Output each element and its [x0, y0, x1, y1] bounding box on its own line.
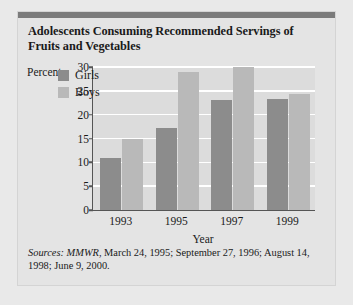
legend-swatch-icon-girls: [58, 70, 69, 81]
y-tick-label: 15: [78, 133, 90, 145]
sources-publication: MMWR: [67, 247, 99, 258]
legend-item-girls: Girls: [58, 67, 100, 83]
bar-boys-1997: [233, 67, 254, 210]
x-tick-label: 1993: [93, 215, 149, 227]
bar-boys-1999: [289, 94, 310, 210]
x-tick-label: 1997: [204, 215, 260, 227]
bar-group: 1997: [204, 67, 260, 210]
bar-girls-1993: [100, 158, 121, 210]
bar-girls-1997: [211, 100, 232, 210]
header-rule: [18, 12, 335, 18]
y-axis-label: Percent: [27, 66, 61, 78]
sources-label: Sources:: [28, 247, 64, 258]
legend-swatch-icon-boys: [58, 87, 69, 98]
legend-label-boys: Boys: [75, 85, 100, 100]
y-tick-label: 20: [78, 109, 90, 121]
bar-group: 1999: [260, 67, 316, 210]
y-tick-label: 5: [83, 180, 89, 192]
x-tick-label: 1999: [260, 215, 316, 227]
bar-boys-1995: [178, 72, 199, 210]
bar-group: 1995: [149, 67, 205, 210]
plot-wrapper: Percent 0510152025301993199519971999 Gir…: [18, 58, 335, 233]
y-tick-label: 10: [78, 156, 90, 168]
y-tick-label: 0: [83, 204, 89, 216]
sources-note: Sources: MMWR, March 24, 1995; September…: [28, 247, 328, 272]
x-axis-label: Year: [92, 233, 314, 245]
legend-label-girls: Girls: [75, 68, 99, 83]
x-tick-label: 1995: [149, 215, 205, 227]
chart-legend: Girls Boys: [58, 67, 100, 101]
chart-card: Adolescents Consuming Recommended Servin…: [18, 12, 335, 285]
bar-boys-1993: [122, 139, 143, 211]
plot-area: 0510152025301993199519971999: [92, 67, 315, 211]
bar-group: 1993: [93, 67, 149, 210]
legend-item-boys: Boys: [58, 84, 100, 100]
bar-girls-1995: [156, 128, 177, 210]
page-title: Adolescents Consuming Recommended Servin…: [28, 24, 324, 53]
figure-canvas: Adolescents Consuming Recommended Servin…: [0, 0, 353, 305]
bar-girls-1999: [267, 99, 288, 210]
